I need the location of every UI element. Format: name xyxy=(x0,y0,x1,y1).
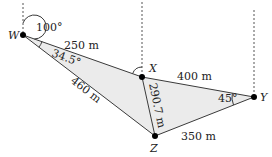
edge-label-wx: 250 m xyxy=(64,39,99,52)
angle-label-bearing-w: 100° xyxy=(36,21,63,34)
vertex-dot-w xyxy=(20,32,26,38)
vertex-label-w: W xyxy=(8,29,21,42)
triangle-diagram: W X Y Z 100° 34.5° 45° 250 m 400 m 460 m… xyxy=(0,0,272,157)
vertex-label-x: X xyxy=(148,62,158,75)
bearing-arc-x xyxy=(133,67,142,74)
angle-label-y: 45° xyxy=(218,92,238,105)
vertex-dot-z xyxy=(152,133,158,139)
vertex-label-z: Z xyxy=(149,142,158,155)
vertex-dot-y xyxy=(251,94,257,100)
vertex-dot-x xyxy=(139,74,145,80)
vertex-label-y: Y xyxy=(260,91,269,104)
edge-label-xy: 400 m xyxy=(177,70,212,83)
edge-label-zy: 350 m xyxy=(181,130,216,143)
